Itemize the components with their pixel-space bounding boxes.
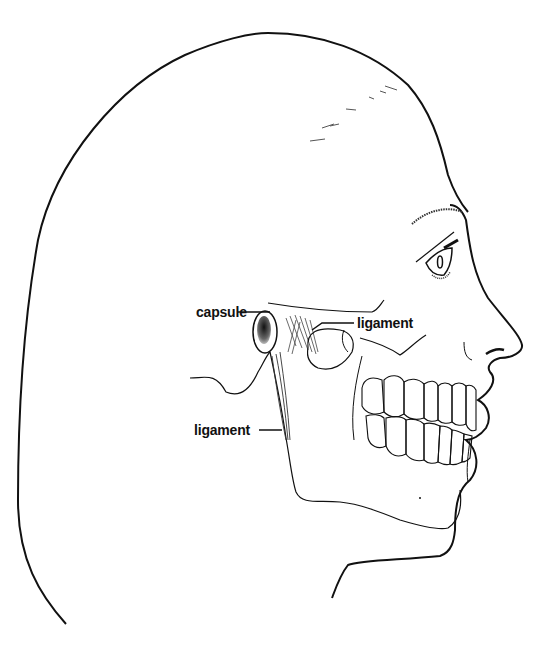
- teeth: [362, 376, 476, 465]
- mental-foramen: [419, 497, 421, 499]
- eyebrow: [412, 209, 462, 224]
- mandible-ramus: [270, 352, 461, 529]
- mandible-symphysis: [467, 440, 470, 482]
- label-capsule: capsule: [196, 305, 247, 319]
- hairline-strokes: [310, 86, 397, 141]
- ligament-stylomandibular: [272, 352, 290, 440]
- tmj-anatomy-drawing: [0, 0, 548, 652]
- mastoid-line: [190, 352, 270, 394]
- nostril: [486, 349, 504, 354]
- maxilla-line: [360, 335, 426, 355]
- zygomatic-arch: [268, 300, 384, 312]
- ramus-front: [353, 356, 362, 440]
- condyle-capsule: [253, 311, 277, 353]
- eye: [416, 232, 458, 278]
- label-ligament-lower: ligament: [194, 423, 250, 437]
- ligament-fibers-upper: [286, 315, 318, 354]
- nasolabial-fold: [464, 342, 472, 360]
- label-ligament-upper: ligament: [357, 316, 413, 330]
